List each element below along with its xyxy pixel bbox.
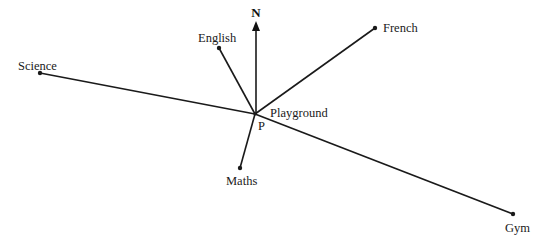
label-maths: Maths xyxy=(226,174,257,188)
label-p: P xyxy=(258,119,265,133)
label-playground: Playground xyxy=(270,106,328,120)
ray-french xyxy=(255,28,375,114)
point-gym xyxy=(511,212,515,216)
point-maths xyxy=(238,166,242,170)
bearing-diagram: N English French Science Maths Gym Playg… xyxy=(0,0,549,245)
point-french xyxy=(373,26,377,30)
label-french: French xyxy=(383,21,418,35)
label-english: English xyxy=(198,31,237,45)
north-arrow-icon xyxy=(252,21,260,31)
label-science: Science xyxy=(18,59,57,73)
ray-gym xyxy=(255,114,513,214)
ray-maths xyxy=(240,114,255,168)
ray-english xyxy=(219,48,255,114)
point-english xyxy=(217,46,221,50)
label-gym: Gym xyxy=(505,221,530,235)
north-label: N xyxy=(251,5,261,20)
ray-science xyxy=(40,73,255,114)
point-p xyxy=(253,112,256,115)
